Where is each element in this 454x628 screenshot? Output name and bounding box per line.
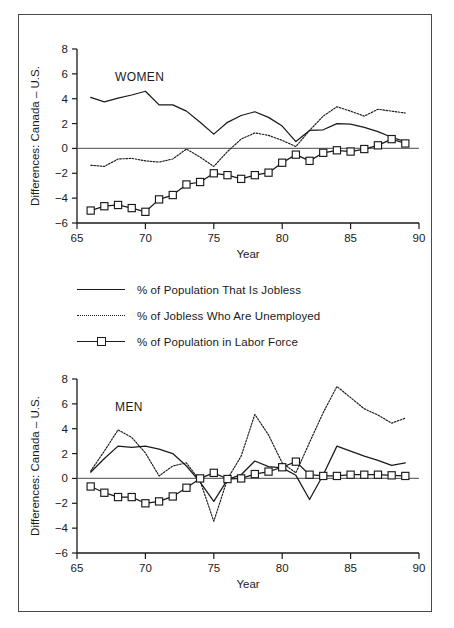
figure-legend: % of Population That Is Jobless % of Job… <box>19 277 433 355</box>
legend-label-unemployed: % of Jobless Who Are Unemployed <box>137 310 320 322</box>
men-y-tick-label: −4 <box>55 522 69 534</box>
men-y-tick-label: 6 <box>62 398 68 410</box>
women-y-tick-label: −6 <box>55 217 68 229</box>
legend-label-laborforce: % of Population in Labor Force <box>137 336 298 348</box>
men-series-2-marker <box>210 469 217 476</box>
men-series-2-marker <box>87 483 94 490</box>
men-panel-title: MEN <box>115 400 143 414</box>
women-x-tick-label: 75 <box>207 232 220 244</box>
chart-panel-men: 86420−2−4−6657075808590YearDifferences: … <box>19 357 433 605</box>
women-y-tick-label: −2 <box>55 167 68 179</box>
women-series-2-marker <box>402 140 409 147</box>
women-series-2-marker <box>333 147 340 154</box>
men-series-2-marker <box>306 471 313 478</box>
women-series-2-marker <box>183 181 190 188</box>
women-series-2-marker <box>279 159 286 166</box>
women-series-2-marker <box>142 208 149 215</box>
men-series-2-marker <box>374 471 381 478</box>
men-series-2-marker <box>101 489 108 496</box>
men-x-tick-label: 65 <box>71 562 84 574</box>
men-y-tick-label: 4 <box>62 423 69 435</box>
women-series-1 <box>91 107 406 167</box>
women-y-tick-label: 4 <box>62 93 69 105</box>
legend-swatch-solid-line <box>75 283 127 297</box>
women-series-2-marker <box>155 196 162 203</box>
men-chart-svg: 86420−2−4−6657075808590YearDifferences: … <box>19 357 433 605</box>
women-series-2-marker <box>361 145 368 152</box>
men-series-2-marker <box>333 472 340 479</box>
women-series-2-marker <box>197 178 204 185</box>
women-series-2-marker <box>388 136 395 143</box>
women-x-tick-label: 70 <box>139 232 152 244</box>
men-series-2-marker <box>224 475 231 482</box>
men-series-2-marker <box>128 493 135 500</box>
men-series-2-marker <box>402 472 409 479</box>
men-series-0 <box>91 446 406 501</box>
men-y-tick-label: 0 <box>62 472 68 484</box>
men-series-2-marker <box>320 472 327 479</box>
women-y-tick-label: −4 <box>55 192 69 204</box>
men-series-2-marker <box>238 475 245 482</box>
men-y-tick-label: −2 <box>55 497 68 509</box>
women-series-2-marker <box>265 169 272 176</box>
women-series-2-marker <box>251 172 258 179</box>
women-series-2-marker <box>374 142 381 149</box>
men-series-2-marker <box>347 471 354 478</box>
men-series-2-marker <box>388 472 395 479</box>
women-y-tick-label: 2 <box>62 118 68 130</box>
women-series-2-marker <box>320 149 327 156</box>
men-x-tick-label: 80 <box>276 562 289 574</box>
figure-frame: 86420−2−4−6657075808590YearDifferences: … <box>18 14 432 612</box>
women-y-axis-title: Differences: Canada – U.S. <box>29 66 41 206</box>
women-series-2-marker <box>238 175 245 182</box>
men-x-tick-label: 85 <box>344 562 357 574</box>
women-series-0 <box>91 91 406 141</box>
figure-page: 86420−2−4−6657075808590YearDifferences: … <box>0 0 454 628</box>
men-y-tick-label: 8 <box>62 373 68 385</box>
women-series-2-marker <box>210 170 217 177</box>
women-y-tick-label: 6 <box>62 68 68 80</box>
women-series-2-marker <box>101 203 108 210</box>
legend-label-jobless: % of Population That Is Jobless <box>137 284 301 296</box>
men-x-axis-title: Year <box>236 578 259 590</box>
men-series-2-marker <box>183 484 190 491</box>
legend-item-laborforce: % of Population in Labor Force <box>19 329 433 355</box>
women-series-2-marker <box>114 201 121 208</box>
women-series-2-marker <box>87 207 94 214</box>
legend-item-unemployed: % of Jobless Who Are Unemployed <box>19 303 433 329</box>
chart-panel-women: 86420−2−4−6657075808590YearDifferences: … <box>19 27 433 275</box>
legend-swatch-square-marker-line <box>75 335 127 349</box>
women-series-2-marker <box>292 151 299 158</box>
men-series-2-marker <box>142 500 149 507</box>
women-x-tick-label: 85 <box>344 232 357 244</box>
women-series-2 <box>91 139 406 212</box>
men-series-2-marker <box>197 475 204 482</box>
women-x-tick-label: 90 <box>413 232 426 244</box>
women-chart-svg: 86420−2−4−6657075808590YearDifferences: … <box>19 27 433 275</box>
men-y-tick-label: 2 <box>62 448 68 460</box>
legend-item-jobless: % of Population That Is Jobless <box>19 277 433 303</box>
men-series-2-marker <box>155 498 162 505</box>
men-series-2-marker <box>169 493 176 500</box>
men-y-axis-title: Differences: Canada – U.S. <box>29 396 41 536</box>
women-y-tick-label: 0 <box>62 142 68 154</box>
women-x-tick-label: 65 <box>71 232 84 244</box>
men-series-2-marker <box>265 468 272 475</box>
women-panel-title: WOMEN <box>115 70 164 84</box>
men-x-tick-label: 90 <box>413 562 426 574</box>
women-series-2-marker <box>224 172 231 179</box>
women-series-2-marker <box>347 148 354 155</box>
men-series-2-marker <box>292 458 299 465</box>
women-x-tick-label: 80 <box>276 232 289 244</box>
legend-swatch-dotted-line <box>75 309 127 323</box>
women-series-2-marker <box>306 157 313 164</box>
men-series-2-marker <box>114 493 121 500</box>
women-y-tick-label: 8 <box>62 43 68 55</box>
men-y-tick-label: −6 <box>55 547 68 559</box>
men-series-2-marker <box>279 464 286 471</box>
men-series-2-marker <box>251 470 258 477</box>
women-series-2-marker <box>169 191 176 198</box>
men-series-2-marker <box>361 471 368 478</box>
women-x-axis-title: Year <box>236 248 259 260</box>
women-series-2-marker <box>128 204 135 211</box>
